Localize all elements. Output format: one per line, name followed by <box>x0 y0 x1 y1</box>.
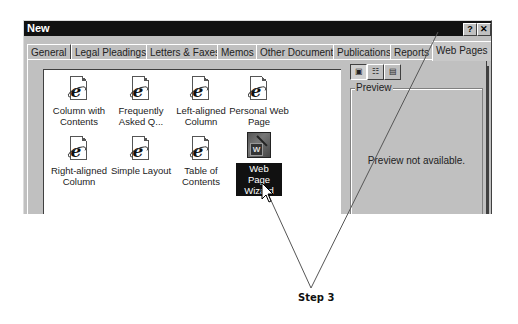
tab-legal-pleadings[interactable]: Legal Pleadings <box>71 44 150 60</box>
tab-memos[interactable]: Memos <box>217 44 258 60</box>
help-button[interactable]: ? <box>463 23 477 36</box>
ie-document-icon: e <box>248 76 270 102</box>
template-label-selected: Web Page Wizard <box>236 163 282 196</box>
tab-strip: General Legal Pleadings Letters & Faxes … <box>27 41 491 61</box>
large-icons-view-button[interactable]: ▣ <box>350 64 367 80</box>
title-bar: New ? ✕ <box>24 21 491 36</box>
tab-pane: e Column with Contents e Frequently Aske… <box>27 59 487 214</box>
template-item-right-aligned-column[interactable]: e Right-aligned Column <box>48 136 110 187</box>
template-label: Column with Contents <box>53 105 105 127</box>
template-item-column-with-contents[interactable]: e Column with Contents <box>48 76 110 127</box>
dialog-title: New <box>27 22 50 34</box>
template-label: Table of Contents <box>182 165 220 187</box>
new-dialog: New ? ✕ General Legal Pleadings Letters … <box>23 20 492 214</box>
template-item-frequently-asked[interactable]: e Frequently Asked Q... <box>110 76 172 127</box>
ie-document-icon: e <box>130 136 152 162</box>
tab-publications[interactable]: Publications <box>333 44 395 60</box>
list-view-button[interactable]: ☷ <box>367 64 384 80</box>
template-item-table-of-contents[interactable]: e Table of Contents <box>170 136 232 187</box>
ie-document-icon: e <box>68 136 90 162</box>
close-button[interactable]: ✕ <box>477 23 491 36</box>
ie-document-icon: e <box>190 76 212 102</box>
template-label: Simple Layout <box>111 165 171 176</box>
tab-other-documents[interactable]: Other Documents <box>256 44 342 60</box>
tab-web-pages[interactable]: Web Pages <box>432 41 492 61</box>
ie-document-icon: e <box>68 76 90 102</box>
wizard-icon <box>247 132 271 160</box>
template-item-web-page-wizard[interactable]: Web Page Wizard <box>228 132 290 196</box>
ie-document-icon: e <box>130 76 152 102</box>
step-label: Step 3 <box>298 292 334 303</box>
template-item-personal-web-page[interactable]: e Personal Web Page <box>228 76 290 127</box>
preview-group: Preview Preview not available. <box>350 88 483 214</box>
details-view-button[interactable]: ▤ <box>384 64 401 80</box>
template-list[interactable]: e Column with Contents e Frequently Aske… <box>43 69 341 214</box>
ie-document-icon: e <box>190 136 212 162</box>
preview-message: Preview not available. <box>351 155 482 166</box>
preview-legend: Preview <box>355 82 393 93</box>
template-label: Left-aligned Column <box>176 105 226 127</box>
template-item-left-aligned-column[interactable]: e Left-aligned Column <box>170 76 232 127</box>
template-item-simple-layout[interactable]: e Simple Layout <box>110 136 172 176</box>
dialog-frame-edge <box>487 66 489 214</box>
template-label: Frequently Asked Q... <box>119 105 164 127</box>
tab-reports[interactable]: Reports <box>390 44 433 60</box>
tab-letters-faxes[interactable]: Letters & Faxes <box>146 44 224 60</box>
template-label: Right-aligned Column <box>51 165 107 187</box>
template-label: Personal Web Page <box>229 105 289 127</box>
tab-general[interactable]: General <box>27 44 71 60</box>
